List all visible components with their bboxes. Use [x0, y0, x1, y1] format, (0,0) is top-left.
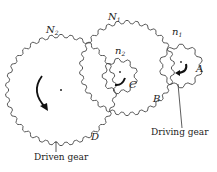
arrowhead-driven	[40, 103, 48, 111]
point-label-C: C	[129, 80, 137, 90]
point-label-D: D	[91, 132, 99, 142]
point-label-A: A	[196, 64, 203, 74]
leader-driving	[178, 84, 182, 128]
caption-driven-gear: Driven gear	[34, 153, 88, 162]
arrowhead-driving	[175, 70, 180, 76]
label-n2: n2	[115, 46, 125, 57]
caption-driving-gear: Driving gear	[151, 128, 209, 137]
label-N1: N1	[108, 12, 121, 23]
rotation-arrow-driven	[37, 76, 46, 108]
point-label-B: B	[153, 94, 160, 104]
label-N2: N2	[46, 25, 59, 36]
center-n1-gear	[180, 61, 182, 63]
center-n2-gear	[60, 89, 62, 91]
label-n1: n1	[172, 27, 182, 38]
center-n1-gear-big	[119, 71, 121, 73]
gear-train-diagram	[0, 0, 217, 172]
